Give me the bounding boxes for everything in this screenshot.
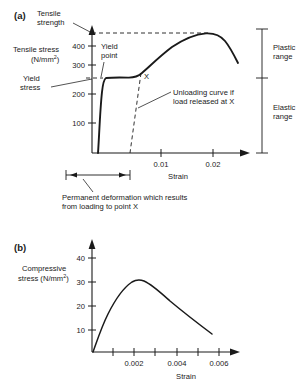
panel-a: (a) Tensile strength Tensile stress (N/m… xyxy=(13,9,296,211)
panel-a-y-axis-arrow xyxy=(89,25,96,35)
permanent-deformation-arrow-left xyxy=(70,173,77,178)
figure-container: (a) Tensile strength Tensile stress (N/m… xyxy=(0,0,303,383)
unloading-label-line2: load released at X xyxy=(173,97,234,106)
permanent-deformation-label-line2: from loading to point X xyxy=(62,202,138,211)
panel-a-x-axis-title: Strain xyxy=(168,172,188,181)
panel-a-x-ticklabel-002: 0.02 xyxy=(206,160,221,169)
panel-a-label: (a) xyxy=(14,10,26,21)
elastic-range-label-line2: range xyxy=(273,112,292,121)
panel-b: (b) Compressive stress (N/mm2) 10 20 30 … xyxy=(14,239,240,381)
permanent-deformation-arrow-right xyxy=(119,173,126,178)
point-x-label: X xyxy=(144,72,149,81)
panel-b-y-ticklabel-10: 10 xyxy=(77,326,85,335)
panel-a-y-ticklabel-400: 400 xyxy=(72,42,85,51)
tensile-strength-label-line2: strength xyxy=(37,18,64,27)
tensile-strength-label-line1: Tensile xyxy=(37,9,61,18)
panel-b-x-ticklabel-0002: 0.002 xyxy=(124,359,143,368)
panel-a-y-axis-title-line2: (N/mm2) xyxy=(31,54,60,64)
panel-b-y-axis-arrow xyxy=(89,239,96,249)
panel-b-x-ticklabel-0006: 0.006 xyxy=(209,359,228,368)
panel-a-y-ticklabel-200: 200 xyxy=(72,90,85,99)
yield-stress-label-line1: Yield xyxy=(23,74,40,83)
yield-point-leader xyxy=(101,62,104,77)
unloading-label-line1: Unloading curve if xyxy=(173,88,235,97)
stress-strain-figure: (a) Tensile strength Tensile stress (N/m… xyxy=(0,0,303,383)
yield-stress-label-line2: stress xyxy=(20,83,40,92)
unloading-leader xyxy=(138,92,171,108)
plastic-range-label-line2: range xyxy=(273,52,292,61)
plastic-range-label-line1: Plastic xyxy=(273,43,296,52)
permanent-deformation-label-line1: Permanent deformation which results xyxy=(62,193,188,202)
panel-a-x-ticklabel-001: 0.01 xyxy=(154,160,169,169)
panel-b-x-ticklabel-0004: 0.004 xyxy=(167,359,186,368)
panel-a-y-axis-title-line1: Tensile stress xyxy=(13,45,59,54)
compressive-curve xyxy=(93,280,212,352)
panel-b-x-axis-arrow xyxy=(230,349,240,356)
unloading-curve-line xyxy=(130,73,141,153)
panel-b-y-axis-title-line2: stress (N/mm2) xyxy=(18,273,69,283)
yield-stress-leader xyxy=(51,79,92,87)
panel-b-y-ticklabel-40: 40 xyxy=(77,254,85,263)
panel-a-x-axis-arrow xyxy=(240,150,250,157)
panel-b-y-axis-title-line1: Compressive xyxy=(22,264,66,273)
elastic-range-label-line1: Elastic xyxy=(273,103,296,112)
panel-b-y-ticklabel-20: 20 xyxy=(77,302,85,311)
yield-point-label-line1: Yield xyxy=(101,42,118,51)
permanent-deformation-leader xyxy=(83,179,93,192)
panel-b-y-ticklabel-30: 30 xyxy=(77,278,85,287)
panel-a-y-ticklabel-100: 100 xyxy=(72,119,85,128)
panel-b-x-axis-title: Strain xyxy=(176,372,196,381)
panel-b-label: (b) xyxy=(14,242,26,253)
tensile-strength-leader xyxy=(73,23,92,33)
panel-a-y-ticklabel-300: 300 xyxy=(72,61,85,70)
yield-point-label-line2: point xyxy=(101,51,118,60)
